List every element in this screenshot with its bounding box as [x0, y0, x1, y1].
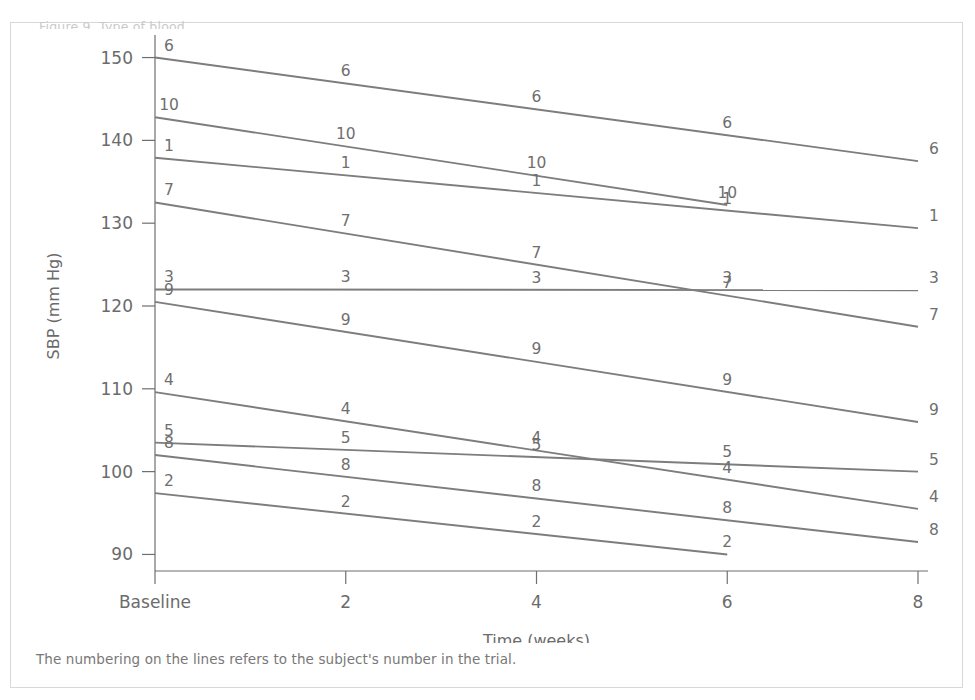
point-label-6: 6	[532, 88, 542, 106]
point-label-9: 9	[929, 401, 939, 419]
y-tick-label: 130	[101, 213, 133, 233]
y-tick-label: 110	[101, 379, 133, 399]
x-axis: Baseline2468	[119, 571, 928, 612]
point-label-10: 10	[527, 154, 547, 172]
point-label-2: 2	[341, 493, 351, 511]
y-tick-label: 150	[101, 48, 133, 68]
y-tick-label: 140	[101, 130, 133, 150]
series-point-labels-group: 6666610101010111117777733333999994444455…	[159, 37, 939, 552]
series-line-2	[155, 493, 727, 554]
point-label-3: 3	[532, 269, 542, 287]
y-axis-title: SBP (mm Hg)	[44, 253, 63, 360]
x-tick-label: 8	[913, 592, 924, 612]
point-label-8: 8	[532, 477, 542, 495]
chart-plot-area: 90100110120130140150 Baseline2468 666661…	[11, 23, 964, 643]
point-label-8: 8	[722, 499, 732, 517]
point-label-2: 2	[532, 513, 542, 531]
y-tick-label: 90	[111, 544, 133, 564]
point-label-2: 2	[164, 472, 174, 490]
point-label-7: 7	[164, 181, 174, 199]
point-label-3: 3	[341, 268, 351, 286]
sbp-line-chart: 90100110120130140150 Baseline2468 666661…	[11, 23, 964, 643]
x-tick-label: 2	[340, 592, 351, 612]
series-line-10	[155, 117, 727, 205]
y-tick-label: 100	[101, 462, 133, 482]
x-tick-label: 6	[722, 592, 733, 612]
point-label-7: 7	[929, 306, 939, 324]
point-label-4: 4	[929, 488, 939, 506]
series-line-3	[155, 289, 918, 290]
point-label-6: 6	[341, 62, 351, 80]
point-label-6: 6	[722, 114, 732, 132]
series-line-6	[155, 58, 918, 162]
point-label-1: 1	[929, 207, 939, 225]
point-label-7: 7	[532, 244, 542, 262]
point-label-9: 9	[722, 371, 732, 389]
point-label-4: 4	[341, 400, 351, 418]
point-label-1: 1	[164, 137, 174, 155]
point-label-1: 1	[532, 172, 542, 190]
x-axis-title: Time (weeks)	[482, 631, 590, 643]
y-tick-label: 120	[101, 296, 133, 316]
figure-frame: Figure 9. Type of blood 9010011012013014…	[10, 22, 963, 688]
point-label-8: 8	[929, 521, 939, 539]
x-tick-label: 4	[531, 592, 542, 612]
point-label-5: 5	[929, 451, 939, 469]
point-label-6: 6	[164, 37, 174, 55]
point-label-2: 2	[722, 533, 732, 551]
point-label-4: 4	[164, 371, 174, 389]
point-label-3: 3	[722, 269, 732, 287]
point-label-7: 7	[341, 212, 351, 230]
y-axis: 90100110120130140150	[101, 35, 155, 571]
point-label-5: 5	[722, 443, 732, 461]
point-label-3: 3	[929, 269, 939, 287]
series-line-7	[155, 202, 918, 326]
point-label-10: 10	[159, 96, 179, 114]
point-label-4: 4	[722, 459, 732, 477]
point-label-8: 8	[164, 434, 174, 452]
point-label-5: 5	[341, 429, 351, 447]
point-label-1: 1	[341, 154, 351, 172]
point-label-8: 8	[341, 456, 351, 474]
point-label-9: 9	[341, 311, 351, 329]
point-label-1: 1	[722, 190, 732, 208]
figure-note: The numbering on the lines refers to the…	[36, 651, 516, 667]
series-line-9	[155, 302, 918, 422]
point-label-10: 10	[336, 125, 356, 143]
point-label-6: 6	[929, 140, 939, 158]
point-label-9: 9	[164, 281, 174, 299]
x-tick-label: Baseline	[119, 592, 191, 612]
point-label-9: 9	[532, 340, 542, 358]
point-label-5: 5	[532, 436, 542, 454]
